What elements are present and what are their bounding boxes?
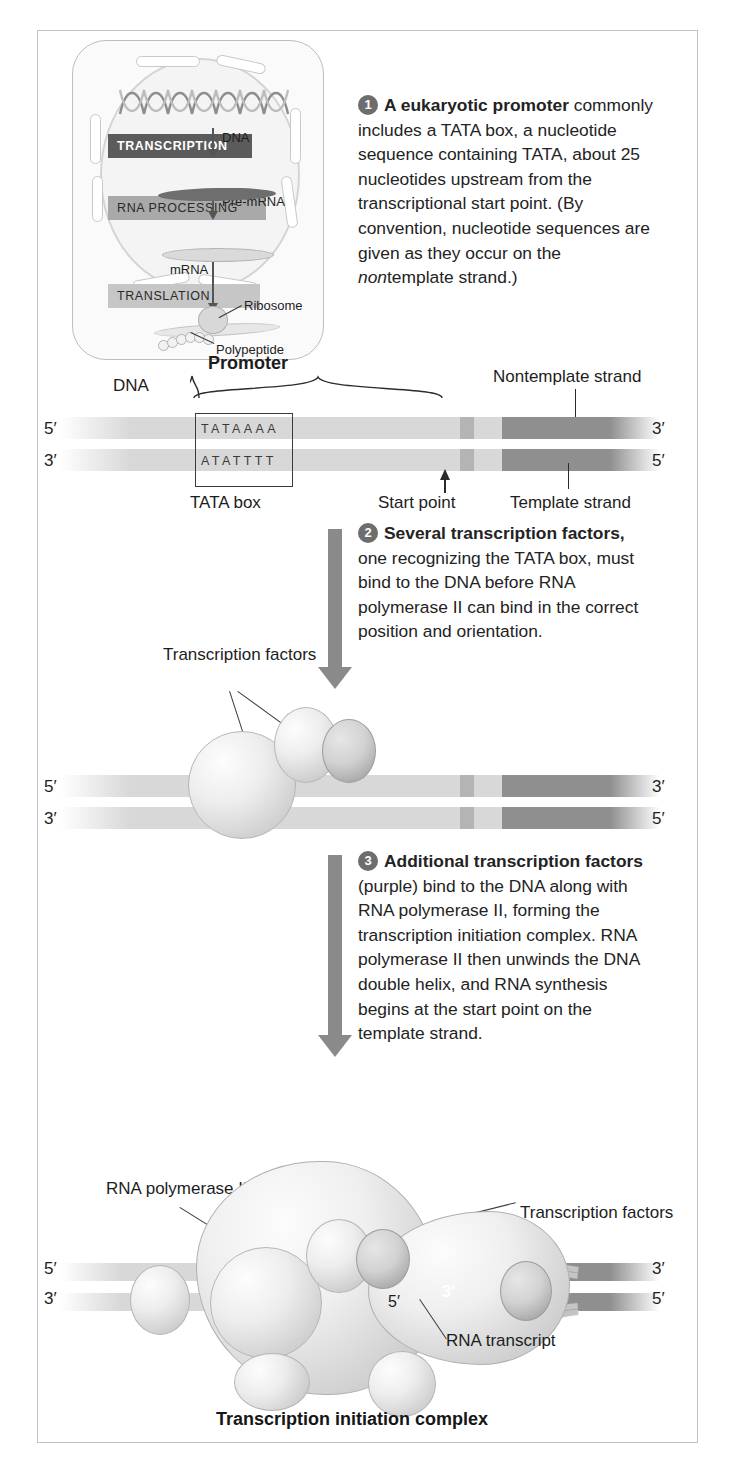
flow-arrow-1 bbox=[328, 529, 342, 669]
dna-double-strand-2 bbox=[60, 775, 660, 837]
start-point-label: Start point bbox=[378, 493, 456, 513]
stage-translation: TRANSLATION bbox=[108, 284, 260, 308]
dna-label: DNA bbox=[113, 376, 149, 396]
bottom-strand-sequence: ATATTTT bbox=[201, 454, 277, 468]
nontemplate-strand-label: Nontemplate strand bbox=[493, 367, 641, 387]
promoter-label: Promoter bbox=[208, 353, 288, 374]
prime-3-left-1: 3′ bbox=[44, 451, 57, 471]
template-strand-label: Template strand bbox=[510, 493, 631, 513]
step-1-italic: non bbox=[358, 267, 387, 287]
prime-5-left-1: 5′ bbox=[44, 419, 57, 439]
top-strand-sequence: TATAAAA bbox=[201, 422, 279, 436]
tata-box-label: TATA box bbox=[190, 493, 261, 513]
step-2-text: 2Several transcription factors, one reco… bbox=[358, 521, 658, 644]
promoter-brace bbox=[190, 373, 454, 399]
transcript-5-prime: 5′ bbox=[388, 1293, 400, 1311]
flow-arrow-2 bbox=[328, 855, 342, 1037]
step-1-text: 1A eukaryotic promoter commonly includes… bbox=[358, 93, 658, 290]
polymerase-bottom-lobe bbox=[234, 1353, 310, 1411]
step-2-bold: Several transcription factors, bbox=[384, 523, 625, 543]
step-1-badge: 1 bbox=[358, 95, 378, 115]
nuclear-pore bbox=[92, 176, 103, 222]
step-1-bold: A eukaryotic promoter bbox=[384, 95, 569, 115]
arrow-dna-to-premrna bbox=[212, 128, 214, 150]
label-dna: DNA bbox=[222, 130, 249, 145]
label-mrna: mRNA bbox=[170, 262, 208, 277]
step-1-body-b: template strand.) bbox=[387, 267, 518, 287]
prime-3-right-2: 3′ bbox=[652, 777, 665, 797]
dna-helix-icon bbox=[118, 84, 290, 120]
transcription-factor-bottom bbox=[368, 1351, 436, 1417]
start-point-arrow-stem bbox=[444, 479, 446, 493]
transcription-factors-label-2: Transcription factors bbox=[163, 645, 316, 665]
prime-3-left-3: 3′ bbox=[44, 1289, 57, 1309]
transcription-factor-right bbox=[500, 1261, 552, 1321]
figure-caption: Transcription initiation complex bbox=[216, 1409, 488, 1430]
nuclear-pore bbox=[90, 114, 101, 164]
step-3-bold: Additional transcription factors bbox=[384, 851, 643, 871]
template-strand bbox=[60, 449, 660, 471]
prime-5-right-2: 5′ bbox=[652, 809, 665, 829]
step-1-body-a: commonly includes a TATA box, a nucleoti… bbox=[358, 95, 653, 263]
leader-nontemplate bbox=[575, 389, 576, 417]
start-point-arrow bbox=[440, 469, 450, 480]
prime-3-right-3: 3′ bbox=[652, 1259, 665, 1279]
prime-5-right-1: 5′ bbox=[652, 451, 665, 471]
transcription-factor-small bbox=[322, 719, 376, 783]
nontemplate-strand bbox=[60, 417, 660, 439]
polymerase-core-blob bbox=[210, 1247, 322, 1359]
step-3-badge: 3 bbox=[358, 851, 378, 871]
prime-5-right-3: 5′ bbox=[652, 1289, 665, 1309]
prime-3-left-2: 3′ bbox=[44, 809, 57, 829]
transcription-factors-label-3: Transcription factors bbox=[520, 1203, 673, 1223]
template-strand-2 bbox=[60, 807, 660, 829]
step-3-body: (purple) bind to the DNA along with RNA … bbox=[358, 876, 639, 1044]
mrna-shape bbox=[162, 248, 274, 262]
transcript-3-prime: 3′ bbox=[442, 1283, 455, 1301]
leader-template bbox=[568, 463, 569, 489]
prime-3-right-1: 3′ bbox=[652, 419, 665, 439]
transcription-factor-left bbox=[130, 1265, 190, 1335]
label-ribosome: Ribosome bbox=[244, 298, 303, 313]
rna-transcript-label: RNA transcript bbox=[446, 1331, 556, 1351]
nuclear-pore bbox=[290, 108, 301, 164]
figure-frame: TRANSCRIPTION RNA PROCESSING TRANSLATION… bbox=[37, 30, 698, 1443]
dna-double-strand-1 bbox=[60, 417, 660, 479]
prime-5-left-2: 5′ bbox=[44, 777, 57, 797]
tf-label-text-2: Transcription factors bbox=[163, 645, 316, 664]
transcription-factor-top-b bbox=[356, 1229, 410, 1289]
nuclear-pore bbox=[136, 56, 200, 67]
prime-5-left-3: 5′ bbox=[44, 1259, 57, 1279]
cell-overview-diagram: TRANSCRIPTION RNA PROCESSING TRANSLATION… bbox=[66, 36, 334, 366]
step-2-badge: 2 bbox=[358, 523, 378, 543]
ribosome-shape bbox=[198, 306, 228, 334]
step-3-text: 3Additional transcription factors (purpl… bbox=[358, 849, 658, 1046]
step-2-body: one recognizing the TATA box, must bind … bbox=[358, 548, 638, 642]
